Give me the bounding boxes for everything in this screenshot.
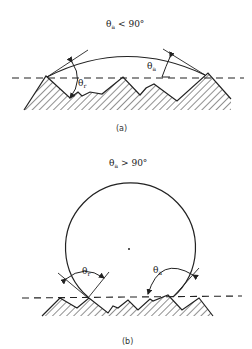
tangent-left-b-1 — [58, 273, 88, 298]
tangent-left-b-2 — [88, 272, 109, 298]
panel-a-caption: (a) — [116, 124, 127, 133]
droplet-outline-b — [66, 183, 196, 297]
panel-b-caption: (b) — [122, 337, 133, 346]
panel-a: θa< 90° θr θa (a) — [12, 19, 244, 133]
advancing-angle-label-a: θa — [147, 61, 156, 72]
panel-a-title: θa< 90° — [106, 19, 144, 30]
droplet-center-mark — [128, 248, 130, 250]
advancing-angle-label-b: θa — [153, 265, 162, 276]
receding-angle-label-b: θr — [82, 266, 90, 277]
panel-b: θa> 90° θr θa (b) — [22, 158, 242, 346]
panel-b-title: θa> 90° — [109, 158, 147, 169]
droplet-outline-a — [47, 56, 205, 77]
contact-angle-diagram: θa< 90° θr θa (a) θa> 90° — [0, 0, 252, 349]
rough-surface-a — [24, 73, 231, 110]
tangent-right-b — [173, 268, 199, 297]
receding-angle-label-a: θr — [78, 78, 86, 89]
mean-plane-line-b — [22, 296, 242, 298]
